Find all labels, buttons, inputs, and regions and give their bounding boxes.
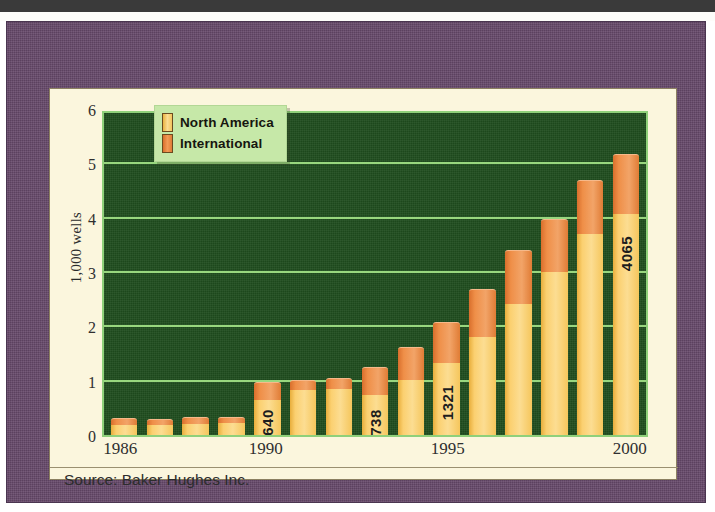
bar-segment-north-america [111,425,138,435]
x-axis-ticks: 1986199019952000 [102,439,648,467]
legend-swatch-international-icon [162,134,173,153]
bar-value-label: 1321 [438,385,455,420]
y-tick-label: 2 [60,319,96,337]
bar-stack [577,180,604,435]
bar-value-label: 4065 [617,236,634,271]
bar-segment-north-america [218,423,245,435]
bar-column [393,113,429,435]
y-tick-label: 6 [60,102,96,120]
bar-segment-north-america [398,380,425,435]
bar-segment-international [326,378,353,390]
y-tick-label: 4 [60,211,96,229]
legend-swatch-north-america-icon [162,113,173,132]
bar-stack [147,419,174,435]
bar-segment-international [577,180,604,234]
bar-stack [218,417,245,435]
legend-label-north-america: North America [180,115,274,130]
bar-stack: 1321 [433,322,460,435]
y-axis-ticks: 0123456 [60,89,96,481]
bar-segment-north-america [577,234,604,435]
chart-legend: North America International [154,105,287,162]
y-tick-label: 0 [60,428,96,446]
bar-segment-international [398,347,425,380]
bar-stack: 4065 [613,154,640,435]
bar-segment-international [613,154,640,214]
bar-stack [182,417,209,435]
purple-frame: 1,000 wells 0123456 64073813214065 19861… [6,21,706,503]
x-tick-label: 1995 [431,439,465,459]
bar-stack [111,418,138,435]
legend-item-international: International [162,134,274,153]
bar-value-label: 640 [259,409,276,436]
bar-column [321,113,357,435]
bar-segment-north-america [505,304,532,435]
bar-column [536,113,572,435]
source-divider [50,467,678,468]
legend-label-international: International [180,136,262,151]
bar-segment-north-america [290,390,317,435]
bar-stack [326,378,353,435]
bar-column [465,113,501,435]
bar-stack [290,380,317,435]
y-tick-label: 3 [60,265,96,283]
source-note: Source: Baker Hughes Inc. [64,471,249,489]
scan-top-strip [0,0,715,12]
bar-segment-international [254,382,281,400]
bar-stack [469,289,496,435]
bar-column [285,113,321,435]
bar-segment-north-america [182,424,209,435]
bar-stack: 640 [254,382,281,435]
bar-stack: 738 [362,367,389,435]
bar-segment-international [290,380,317,391]
bar-column: 4065 [608,113,644,435]
legend-item-north-america: North America [162,113,274,132]
x-tick-label: 1990 [249,439,283,459]
x-tick-label: 1986 [103,439,137,459]
bar-segment-international [433,322,460,363]
bar-column [572,113,608,435]
bar-segment-international [362,367,389,395]
plot-wrapper: 1,000 wells 0123456 64073813214065 19861… [50,89,678,481]
bar-segment-north-america [326,389,353,435]
scan-top-gap [0,12,715,21]
bar-stack [398,347,425,435]
bar-value-label: 738 [366,409,383,436]
bar-stack [505,250,532,435]
chart-panel: 1,000 wells 0123456 64073813214065 19861… [49,88,677,480]
bar-column [500,113,536,435]
bar-column: 1321 [429,113,465,435]
bar-segment-north-america [541,272,568,435]
bar-column [106,113,142,435]
x-tick-label: 2000 [613,439,647,459]
bar-segment-international [541,219,568,272]
bar-column: 738 [357,113,393,435]
figure-root: 1,000 wells 0123456 64073813214065 19861… [0,0,715,512]
bar-segment-north-america [147,425,174,435]
y-tick-label: 1 [60,374,96,392]
bar-segment-north-america [469,337,496,435]
bar-segment-international [505,250,532,304]
bar-segment-international [469,289,496,337]
bar-stack [541,219,568,435]
y-tick-label: 5 [60,156,96,174]
